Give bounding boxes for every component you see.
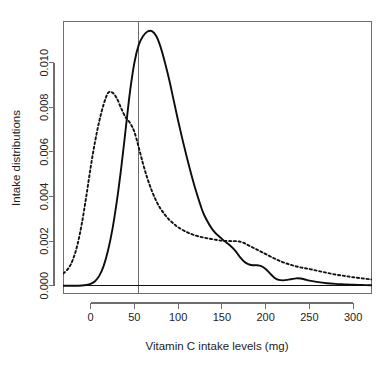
x-tick-label: 100: [169, 311, 187, 323]
y-tick-label: 0.010: [38, 49, 50, 77]
y-tick-label: 0.008: [38, 94, 50, 122]
chart-figure: 050100150200250300 0.0000.0020.0040.0060…: [0, 0, 390, 370]
y-axis-title: Intake distributions: [10, 110, 22, 206]
x-axis-title: Vitamin C intake levels (mg): [146, 340, 289, 352]
y-tick-label: 0.000: [38, 272, 50, 300]
x-tick-label: 0: [88, 311, 94, 323]
y-tick-label: 0.004: [38, 183, 50, 211]
density-plot: 050100150200250300 0.0000.0020.0040.0060…: [0, 0, 390, 370]
x-tick-label: 50: [128, 311, 140, 323]
y-tick-label: 0.002: [38, 227, 50, 255]
x-tick-label: 150: [213, 311, 231, 323]
x-tick-label: 300: [344, 311, 362, 323]
x-tick-label: 250: [300, 311, 318, 323]
x-tick-label: 200: [256, 311, 274, 323]
y-tick-label: 0.006: [38, 138, 50, 166]
